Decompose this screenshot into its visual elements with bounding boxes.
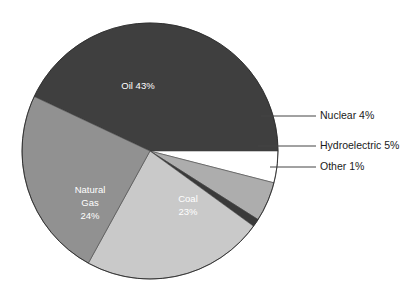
callout-labels: Nuclear 4% Hydroelectric 5% Other 1% (320, 109, 399, 172)
pie-label-natural-gas-value: 24% (80, 210, 100, 221)
pie-chart-canvas: Oil 43% Coal 23% Natural Gas 24% Nuclear… (0, 0, 416, 295)
pie-label-oil: Oil 43% (121, 80, 155, 91)
pie-label-coal-value: 23% (178, 206, 198, 217)
pie-callout-other: Other 1% (320, 160, 364, 172)
pie-callout-nuclear: Nuclear 4% (320, 109, 374, 121)
pie-callout-hydroelectric: Hydroelectric 5% (320, 139, 399, 151)
pie-label-natural-gas-name2: Gas (81, 197, 99, 208)
pie-chart-figure: Oil 43% Coal 23% Natural Gas 24% Nuclear… (0, 0, 416, 295)
pie-label-natural-gas-name1: Natural (75, 184, 106, 195)
pie-label-coal-name: Coal (178, 193, 198, 204)
pie-slices-group (22, 23, 278, 279)
